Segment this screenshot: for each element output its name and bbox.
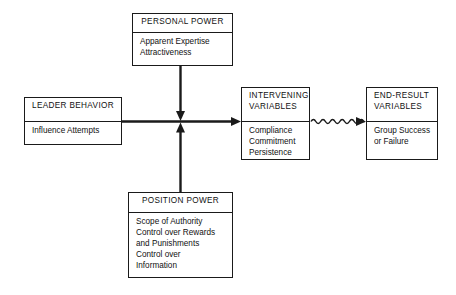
node-personal-power-body: Apparent Expertise Attractiveness	[133, 33, 232, 63]
node-intervening-variables[interactable]: INTERVENING VARIABLES Compliance Commitm…	[241, 87, 310, 160]
node-position-power[interactable]: POSITION POWER Scope of Authority Contro…	[128, 192, 233, 278]
node-personal-power[interactable]: PERSONAL POWER Apparent Expertise Attrac…	[132, 13, 233, 66]
node-leader-behavior-title: LEADER BEHAVIOR	[25, 98, 121, 122]
node-personal-power-title: PERSONAL POWER	[133, 14, 232, 33]
node-leader-behavior[interactable]: LEADER BEHAVIOR Influence Attempts	[24, 97, 122, 145]
node-position-power-body: Scope of Authority Control over Rewards …	[129, 213, 232, 276]
node-end-result-variables-body: Group Success or Failure	[367, 122, 437, 152]
node-intervening-variables-body: Compliance Commitment Persistence	[242, 122, 309, 163]
node-end-result-variables[interactable]: END-RESULT VARIABLES Group Success or Fa…	[366, 87, 438, 160]
connector-personal-power-to-main-flow	[176, 66, 185, 121]
diagram-canvas: PERSONAL POWER Apparent Expertise Attrac…	[0, 0, 456, 295]
node-end-result-variables-title: END-RESULT VARIABLES	[367, 88, 437, 122]
connector-position-power-to-main-flow	[176, 123, 185, 193]
node-intervening-variables-title: INTERVENING VARIABLES	[242, 88, 309, 122]
node-leader-behavior-body: Influence Attempts	[25, 122, 121, 141]
node-position-power-title: POSITION POWER	[129, 193, 232, 213]
connector-intervening-to-end-result-wavy	[311, 117, 366, 126]
